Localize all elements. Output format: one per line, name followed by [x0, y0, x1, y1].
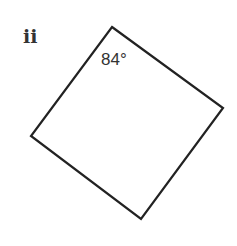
- quadrilateral-shape: [31, 27, 223, 219]
- angle-label-top: 84°: [101, 50, 127, 69]
- quadrilateral-diagram: 84°: [0, 0, 237, 246]
